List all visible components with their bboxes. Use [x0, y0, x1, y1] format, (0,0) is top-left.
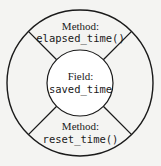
- top-method-name: elapsed_time(): [0, 33, 161, 44]
- bottom-method-kind: Method:: [0, 121, 161, 132]
- center-field-kind: Field:: [0, 71, 161, 82]
- center-field-name: saved_time: [0, 84, 161, 95]
- top-method-kind: Method:: [0, 21, 161, 32]
- bottom-method-name: reset_time(): [0, 134, 161, 145]
